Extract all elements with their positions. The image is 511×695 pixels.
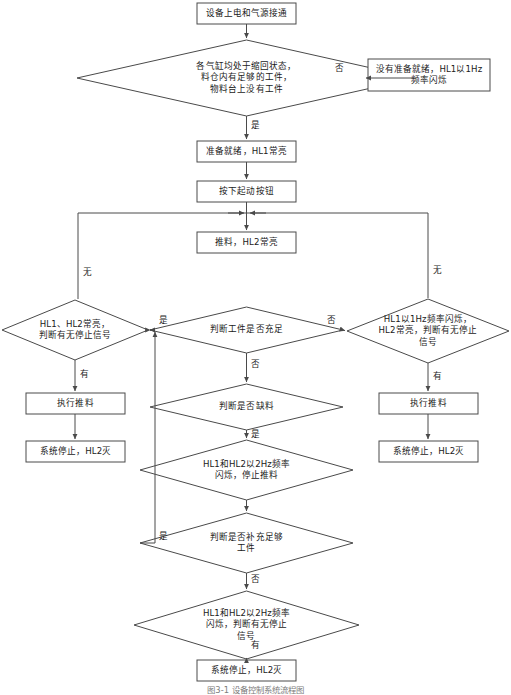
edge-label-no-n7-n9: 否 xyxy=(327,315,336,325)
node-n8-shape[interactable] xyxy=(2,300,148,360)
node-n16-shape[interactable] xyxy=(140,513,353,573)
edge-label-none-n8: 无 xyxy=(83,267,92,277)
node-n17-shape[interactable] xyxy=(134,591,359,659)
node-n11-shape[interactable] xyxy=(26,441,125,462)
node-n1-shape[interactable] xyxy=(197,3,296,24)
node-n6-shape[interactable] xyxy=(197,232,296,253)
edge-label-no-n2-n3: 否 xyxy=(335,63,344,73)
edge-n16-n7-loop xyxy=(140,332,155,543)
node-n14-shape[interactable] xyxy=(150,384,343,430)
edge-label-has-n17-n18: 有 xyxy=(251,640,260,650)
node-n3-shape[interactable] xyxy=(368,59,490,91)
edge-label-no-n7-n14: 否 xyxy=(251,359,260,369)
edge-label-has-n9-n12: 有 xyxy=(433,371,442,381)
node-n5-shape[interactable] xyxy=(197,181,296,202)
node-n4-shape[interactable] xyxy=(197,141,296,162)
node-n15-shape[interactable] xyxy=(140,440,353,500)
node-n9-shape[interactable] xyxy=(347,299,509,363)
node-n18-shape[interactable] xyxy=(197,660,296,681)
edge-label-yes-n7-n8: 是 xyxy=(159,315,168,325)
edge-label-has-n8-n10: 有 xyxy=(80,369,89,379)
node-n7-shape[interactable] xyxy=(150,307,343,353)
node-n13-shape[interactable] xyxy=(379,441,478,462)
edge-label-yes-n2-n4: 是 xyxy=(251,120,260,130)
edge-label-none-n9: 无 xyxy=(433,265,442,275)
edge-n7-n9 xyxy=(343,330,345,331)
edge-label-yes-n16-n7: 是 xyxy=(159,531,168,541)
edge-label-yes-n14-n15: 是 xyxy=(251,429,260,439)
node-n2-shape[interactable] xyxy=(77,40,416,116)
figure-caption: 图3-1 设备控制系统流程图 xyxy=(0,683,511,695)
node-n10-shape[interactable] xyxy=(26,393,125,414)
edge-label-no-n16-n17: 否 xyxy=(251,574,260,584)
node-n12-shape[interactable] xyxy=(379,393,478,414)
